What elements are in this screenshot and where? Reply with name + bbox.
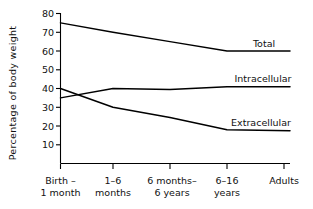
x-category-label-second-line: 1 month <box>41 187 81 198</box>
x-category-label-second-line: years <box>214 187 240 198</box>
y-tick-label: 30 <box>42 102 54 113</box>
y-tick-marks <box>56 14 61 145</box>
series-label-intracellular: Intracellular <box>234 73 291 84</box>
x-tick-marks <box>61 164 285 170</box>
y-tick-label-group: 80 70 60 50 40 30 20 10 <box>42 8 54 150</box>
y-tick-label: 10 <box>42 139 54 150</box>
x-category-label-second-line: 6 years <box>154 187 189 198</box>
y-tick-label: 40 <box>42 83 54 94</box>
y-axis-title: Percentage of body weight <box>7 26 18 161</box>
x-category-label: Adults <box>269 175 299 186</box>
y-tick-label: 70 <box>42 27 54 38</box>
y-tick-label: 20 <box>42 121 54 132</box>
y-tick-label: 80 <box>42 8 54 19</box>
y-tick-label: 60 <box>42 46 54 57</box>
series-label-extracellular: Extracellular <box>231 117 291 128</box>
series-label-total: Total <box>252 38 275 49</box>
x-category-label: 1–6 <box>105 175 122 186</box>
x-category-label-group: Birth – 1 month 1–6 months 6 months– 6 y… <box>41 175 299 198</box>
y-tick-label: 50 <box>42 64 54 75</box>
series-line-intracellular <box>61 87 291 98</box>
x-category-label-second-line: months <box>95 187 131 198</box>
chart-container: Percentage of body weight 80 70 60 50 40… <box>0 0 313 209</box>
x-category-label: 6 months– <box>147 175 197 186</box>
x-category-label: 6–16 <box>216 175 239 186</box>
line-chart-figure: Percentage of body weight 80 70 60 50 40… <box>0 0 313 209</box>
x-category-label: Birth – <box>45 175 76 186</box>
